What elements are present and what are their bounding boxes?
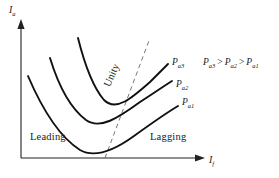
inequality-term-3: Pa1 (246, 57, 258, 67)
inequality-term-2: Pa2 (225, 57, 237, 67)
inequality-operator-2: > (237, 57, 246, 67)
region-label-leading: Leading (30, 132, 66, 143)
x-axis-arrowhead (195, 154, 205, 161)
inequality-term-1: Pa3 (203, 57, 215, 67)
inequality-operator-1: > (215, 57, 224, 67)
region-label-lagging: Lagging (150, 132, 186, 143)
curve-label-pa1: Pa1 (182, 98, 194, 109)
v-curves-figure: Ia If Pa3 Pa2 Pa1 Unity Leading Lagging … (0, 0, 279, 178)
plot-canvas (0, 0, 279, 178)
v-curve-pa3 (78, 38, 168, 105)
y-axis-arrowhead (17, 19, 24, 29)
x-axis-label: If (209, 155, 214, 168)
power-inequality-annotation: Pa3>Pa2>Pa1 (203, 58, 259, 69)
y-axis-label: Ia (9, 5, 16, 18)
curve-label-pa3: Pa3 (172, 58, 184, 69)
curve-label-pa2: Pa2 (176, 80, 188, 91)
